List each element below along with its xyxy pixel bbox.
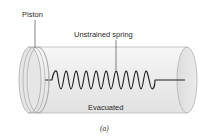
piston-cylinder-diagram: Piston Unstrained spring Evacuated (a) bbox=[0, 0, 209, 139]
figure-caption: (a) bbox=[100, 125, 109, 133]
evacuated-label: Evacuated bbox=[88, 104, 123, 112]
piston-label: Piston bbox=[22, 11, 43, 19]
diagram-canvas bbox=[0, 0, 209, 139]
spring-label: Unstrained spring bbox=[74, 31, 133, 39]
